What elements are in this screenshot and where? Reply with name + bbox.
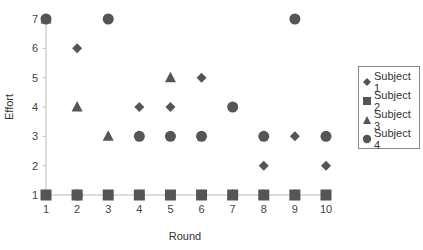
circle-marker-icon [362, 134, 372, 144]
x-axis-title: Round [169, 230, 201, 242]
y-tick-label: 2 [32, 160, 38, 172]
diamond-marker [321, 161, 331, 171]
x-tick-label: 9 [292, 203, 298, 215]
circle-marker [165, 131, 176, 142]
y-tick-label: 3 [32, 130, 38, 142]
circle-marker [134, 131, 145, 142]
diamond-marker [134, 102, 144, 112]
plot-axes: 123456712345678910 [32, 13, 332, 215]
x-tick-label: 7 [230, 203, 236, 215]
y-tick-label: 4 [32, 101, 38, 113]
y-tick-label: 6 [32, 42, 38, 54]
diamond-marker [290, 131, 300, 141]
diamond-marker [72, 43, 82, 53]
legend-label: Subject 4 [374, 127, 419, 151]
x-tick-label: 5 [167, 203, 173, 215]
x-tick-label: 3 [105, 203, 111, 215]
circle-marker [258, 131, 269, 142]
diamond-marker [259, 161, 269, 171]
y-tick-label: 7 [32, 13, 38, 25]
circle-marker [289, 14, 300, 25]
x-tick-label: 2 [74, 203, 80, 215]
y-tick-label: 1 [32, 189, 38, 201]
square-marker-icon [362, 96, 372, 106]
triangle-marker-icon [362, 115, 372, 125]
diamond-marker [165, 102, 175, 112]
circle-marker [196, 131, 207, 142]
triangle-marker [165, 72, 176, 83]
circle-marker [321, 131, 332, 142]
y-axis-title: Effort [3, 94, 15, 120]
y-tick-label: 5 [32, 72, 38, 84]
diamond-marker [197, 73, 207, 83]
square-marker [165, 190, 176, 201]
data-points [41, 13, 332, 201]
chart-legend: Subject 1 Subject 2 Subject 3 Subject 4 [358, 66, 420, 149]
square-marker [72, 190, 83, 201]
diamond-marker-icon [362, 77, 372, 87]
legend-item-subject-4: Subject 4 [359, 129, 419, 148]
x-tick-label: 4 [136, 203, 142, 215]
triangle-marker [72, 101, 83, 112]
x-tick-label: 10 [320, 203, 332, 215]
x-tick-label: 6 [198, 203, 204, 215]
square-marker [103, 190, 114, 201]
x-tick-label: 1 [43, 203, 49, 215]
square-marker [41, 190, 52, 201]
x-tick-label: 8 [261, 203, 267, 215]
triangle-marker [103, 130, 114, 141]
